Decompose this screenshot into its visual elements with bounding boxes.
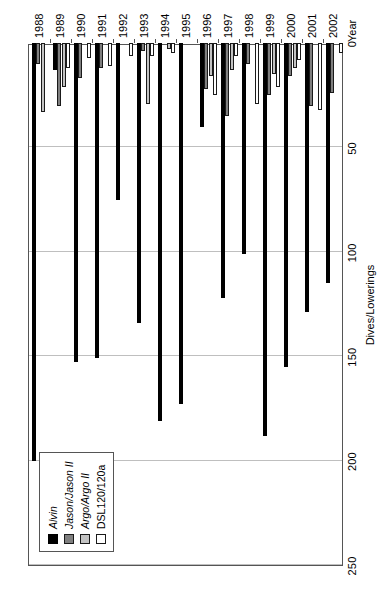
bar: [246, 43, 250, 64]
bar: [309, 43, 313, 106]
category-axis-tick-labels: 1988198919901991199219931994199519961997…: [28, 0, 343, 42]
legend-label: Jason/Jason II: [63, 461, 75, 529]
bar: [234, 43, 238, 56]
value-axis-tick: 100: [346, 243, 358, 262]
value-axis-tick: 250: [346, 557, 358, 576]
bar: [150, 43, 154, 56]
legend-label: Alvin: [47, 506, 59, 529]
category-axis-tick: 1992: [117, 14, 129, 38]
bar: [74, 43, 78, 362]
bar: [32, 43, 36, 461]
category-axis-tick: 1991: [96, 14, 108, 38]
legend-swatch-icon: [80, 534, 90, 544]
bar-group: [239, 45, 260, 565]
category-axis-tick: 1993: [138, 14, 150, 38]
bar-group: [197, 45, 218, 565]
bar: [78, 43, 82, 78]
category-axis-tick: 1996: [201, 14, 213, 38]
bar: [66, 43, 70, 68]
bar-group: [134, 45, 155, 565]
category-axis-tick: 1989: [54, 14, 66, 38]
bar: [255, 43, 259, 104]
legend-label: DSL120/120a: [95, 465, 107, 529]
category-axis-tick: 2002: [327, 14, 339, 38]
category-axis-tick: 1999: [264, 14, 276, 38]
value-axis-tick: 200: [346, 452, 358, 471]
value-axis-tick: 150: [346, 348, 358, 367]
legend-swatch-icon: [48, 534, 58, 544]
category-axis-tick: 1988: [33, 14, 45, 38]
chart-figure: 050100150200250 Dives/Lowerings 19881989…: [0, 0, 384, 614]
legend-swatch-icon: [64, 534, 74, 544]
bar: [242, 43, 246, 254]
bar: [297, 43, 301, 60]
legend-item[interactable]: DSL120/120a: [94, 461, 107, 544]
bar: [95, 43, 99, 358]
bar-group: [176, 45, 197, 565]
value-axis-tick-labels: 050100150200250: [346, 44, 364, 566]
bar-group: [281, 45, 302, 565]
bar: [158, 43, 162, 421]
legend-label: Argo/Argo II: [79, 473, 91, 529]
bar: [284, 43, 288, 367]
category-axis-tick: 1995: [180, 14, 192, 38]
bar: [99, 43, 103, 68]
bar: [276, 43, 280, 87]
bar-group: [218, 45, 239, 565]
legend-item[interactable]: Alvin: [46, 461, 59, 544]
bar-group: [155, 45, 176, 565]
bar: [129, 43, 133, 56]
bar: [116, 43, 120, 200]
bar: [41, 43, 45, 112]
legend-swatch-icon: [96, 534, 106, 544]
chart-legend: AlvinJason/Jason IIArgo/Argo IIDSL120/12…: [39, 452, 114, 552]
bar-group: [113, 45, 134, 565]
bar: [330, 43, 334, 93]
category-axis-tick: 2001: [306, 14, 318, 38]
value-axis-title: Dives/Lowerings: [364, 44, 376, 566]
bar: [213, 43, 217, 95]
value-axis-tick: 50: [346, 142, 358, 155]
legend-item[interactable]: Argo/Argo II: [78, 461, 91, 544]
bar: [108, 43, 112, 66]
bar: [137, 43, 141, 323]
bar-group: [302, 45, 323, 565]
category-axis-tick: 1990: [75, 14, 87, 38]
bar: [263, 43, 267, 436]
bar: [339, 43, 343, 53]
bar: [87, 43, 91, 58]
category-axis-title: Year: [346, 20, 358, 42]
category-axis-tick: 1998: [243, 14, 255, 38]
bar: [318, 43, 322, 110]
bar: [171, 43, 175, 53]
bar-group: [260, 45, 281, 565]
chart-rotator: 050100150200250 Dives/Lowerings 19881989…: [0, 0, 384, 614]
legend-item[interactable]: Jason/Jason II: [62, 461, 75, 544]
bar-group: [323, 45, 344, 565]
category-axis-tick: 1994: [159, 14, 171, 38]
bar: [179, 43, 183, 404]
category-axis-tick: 2000: [285, 14, 297, 38]
category-axis-tick: 1997: [222, 14, 234, 38]
